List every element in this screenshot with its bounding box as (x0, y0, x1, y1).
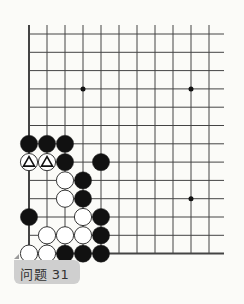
star-point (189, 196, 194, 201)
black-stone[interactable] (92, 154, 109, 171)
black-stone[interactable] (56, 154, 73, 171)
black-stone[interactable] (74, 245, 91, 262)
go-board (0, 0, 244, 304)
white-stone[interactable] (56, 172, 73, 189)
black-stone[interactable] (20, 135, 37, 152)
white-stone[interactable] (56, 190, 73, 207)
label-corner-decoration (14, 254, 19, 259)
white-stone[interactable] (74, 227, 91, 244)
white-stone[interactable] (38, 227, 55, 244)
black-stone[interactable] (92, 245, 109, 262)
black-stone[interactable] (20, 208, 37, 225)
white-stone[interactable] (56, 227, 73, 244)
problem-label: 问题 31 (20, 264, 69, 283)
white-stone[interactable] (74, 208, 91, 225)
star-point (81, 86, 86, 91)
black-stone[interactable] (56, 135, 73, 152)
black-stone[interactable] (92, 227, 109, 244)
black-stone[interactable] (74, 172, 91, 189)
black-stone[interactable] (92, 208, 109, 225)
black-stone[interactable] (38, 135, 55, 152)
black-stone[interactable] (74, 190, 91, 207)
star-point (189, 86, 194, 91)
